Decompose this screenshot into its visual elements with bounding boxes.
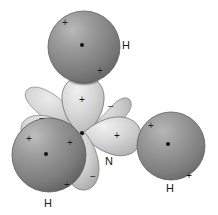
phase-plus-right-h-lower-right: + (186, 171, 192, 181)
phase-sign-sp3-lobe-down: − (90, 172, 96, 182)
atom-label-hydrogen-top: H (122, 40, 130, 51)
nucleus-right-h (166, 142, 170, 146)
phase-plus-left-h-upper-right: + (67, 138, 73, 148)
atom-label-hydrogen-right: H (166, 183, 174, 194)
phase-plus-top-h-lower-right: + (97, 66, 103, 76)
phase-sign-sp3-lobe-upleft: − (39, 114, 45, 124)
phase-plus-left-h-lower-right: + (64, 180, 70, 190)
molecular-orbital-figure: + + + + + + + + − + − − H H H N (0, 0, 218, 215)
nucleus-nitrogen (80, 131, 84, 135)
phase-sign-sp3-lobe-up: + (79, 95, 85, 105)
nucleus-left-h (44, 152, 48, 156)
phase-sign-sp3-lobe-upright: − (108, 102, 114, 112)
nucleus-top-h (80, 43, 84, 47)
phase-plus-top-h-upper-left: + (62, 18, 68, 28)
atom-label-hydrogen-left: H (44, 198, 52, 209)
phase-sign-sp3-lobe-right: + (114, 131, 120, 141)
atom-label-nitrogen: N (105, 156, 113, 167)
phase-plus-right-h-upper-left: + (148, 121, 154, 131)
phase-plus-left-h-upper-left: + (26, 134, 32, 144)
